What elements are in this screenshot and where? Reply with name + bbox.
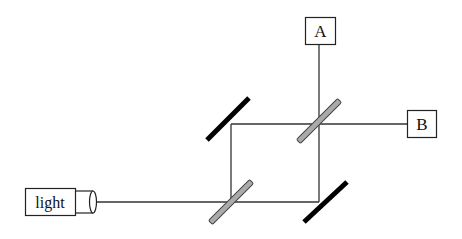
light-label: light: [35, 194, 65, 212]
light-cylinder-icon: [76, 191, 97, 213]
detector-a: A: [306, 18, 336, 45]
mirror-top-left: [207, 98, 249, 140]
detector-b: B: [408, 111, 437, 138]
beam-paths: [97, 44, 407, 202]
detector-b-label: B: [416, 115, 427, 134]
detector-a-label: A: [314, 22, 327, 41]
interferometer-diagram: light A B: [0, 0, 462, 239]
light-source: light: [26, 189, 97, 216]
